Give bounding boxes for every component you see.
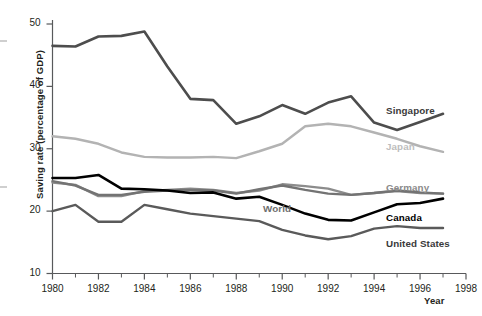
series-label-germany: Germany — [386, 182, 429, 193]
x-tick-label: 1982 — [78, 283, 118, 294]
series-label-canada: Canada — [386, 212, 422, 223]
data-series-group — [53, 31, 444, 239]
x-tick-label: 1990 — [262, 283, 302, 294]
x-tick-label: 1996 — [400, 283, 440, 294]
x-tick-label: 1986 — [170, 283, 210, 294]
y-axis-ticks — [47, 24, 53, 274]
series-line-japan — [53, 124, 444, 158]
series-line-canada — [53, 175, 444, 221]
y-tick-label: 40 — [19, 79, 41, 90]
y-tick-label: 10 — [19, 267, 41, 278]
y-tick-label: 50 — [19, 17, 41, 28]
x-tick-label: 1992 — [308, 283, 348, 294]
x-tick-label: 1988 — [216, 283, 256, 294]
series-label-singapore: Singapore — [386, 105, 435, 116]
series-label-world: World — [263, 203, 291, 214]
x-tick-label: 1984 — [124, 283, 164, 294]
x-axis-ticks — [53, 274, 467, 280]
x-tick-label: 1994 — [354, 283, 394, 294]
series-label-united-states: United States — [386, 238, 450, 249]
x-tick-label: 1980 — [33, 283, 73, 294]
series-line-singapore — [53, 31, 444, 130]
x-tick-label: 1998 — [446, 283, 482, 294]
y-tick-label: 30 — [19, 142, 41, 153]
series-label-japan: Japan — [386, 141, 415, 152]
y-tick-label: 20 — [19, 204, 41, 215]
